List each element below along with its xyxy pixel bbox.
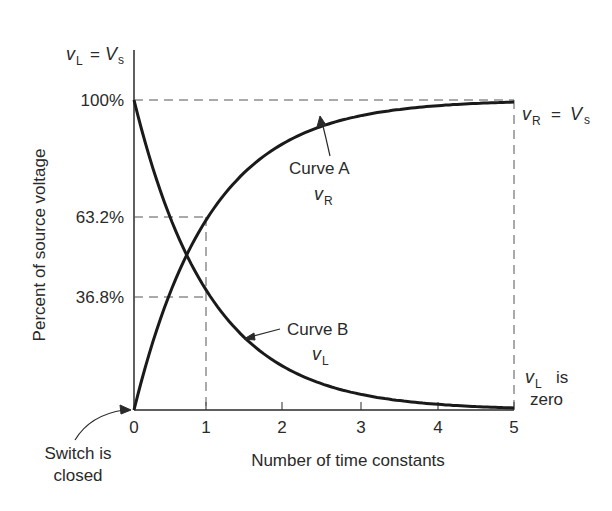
- ytick-100: 100%: [81, 91, 124, 110]
- xtick-5: 5: [509, 418, 518, 437]
- svg-text:closed: closed: [53, 466, 102, 485]
- svg-text:L: L: [76, 54, 83, 68]
- svg-text:R: R: [532, 114, 541, 128]
- curve-a-arrow: [317, 116, 330, 156]
- svg-text:s: s: [584, 113, 590, 127]
- svg-text:v: v: [522, 104, 532, 124]
- rl-time-constant-chart: 100% 63.2% 36.8% 0 1 2 3 4 5 Number of t…: [0, 0, 612, 511]
- svg-text:V: V: [105, 44, 119, 64]
- svg-text:L: L: [322, 354, 329, 368]
- svg-text:v: v: [66, 44, 76, 64]
- svg-text:L: L: [535, 377, 542, 391]
- curve-b-arrow: [244, 329, 280, 340]
- svg-text:Switch is: Switch is: [44, 444, 111, 463]
- xtick-3: 3: [356, 418, 365, 437]
- label-vl-is-zero: v L is zero: [525, 367, 568, 409]
- label-curve-a: Curve A v R: [289, 159, 350, 208]
- xtick-4: 4: [433, 418, 442, 437]
- label-curve-b: Curve B v L: [287, 320, 348, 368]
- label-vl-eq-vs: v L = V s: [66, 44, 124, 68]
- svg-text:R: R: [324, 194, 333, 208]
- svg-text:=: =: [551, 105, 561, 124]
- y-axis-label: Percent of source voltage: [30, 149, 49, 342]
- svg-text:v: v: [525, 367, 535, 387]
- svg-text:is: is: [556, 368, 568, 387]
- xtick-2: 2: [277, 418, 286, 437]
- svg-text:v: v: [314, 184, 324, 204]
- svg-text:zero: zero: [530, 390, 563, 409]
- ytick-632: 63.2%: [76, 208, 124, 227]
- svg-text:Curve B: Curve B: [287, 320, 348, 339]
- label-switch-closed: Switch is closed: [44, 444, 111, 485]
- label-vr-eq-vs: v R = V s: [522, 104, 590, 128]
- ytick-368: 36.8%: [76, 288, 124, 307]
- svg-text:Curve A: Curve A: [289, 159, 350, 178]
- svg-text:=: =: [90, 45, 100, 64]
- switch-arrow: [75, 405, 131, 440]
- xtick-0: 0: [129, 418, 138, 437]
- svg-text:s: s: [118, 53, 124, 67]
- svg-text:v: v: [312, 344, 322, 364]
- svg-text:V: V: [570, 104, 584, 124]
- x-axis-label: Number of time constants: [251, 451, 445, 470]
- xtick-1: 1: [201, 418, 210, 437]
